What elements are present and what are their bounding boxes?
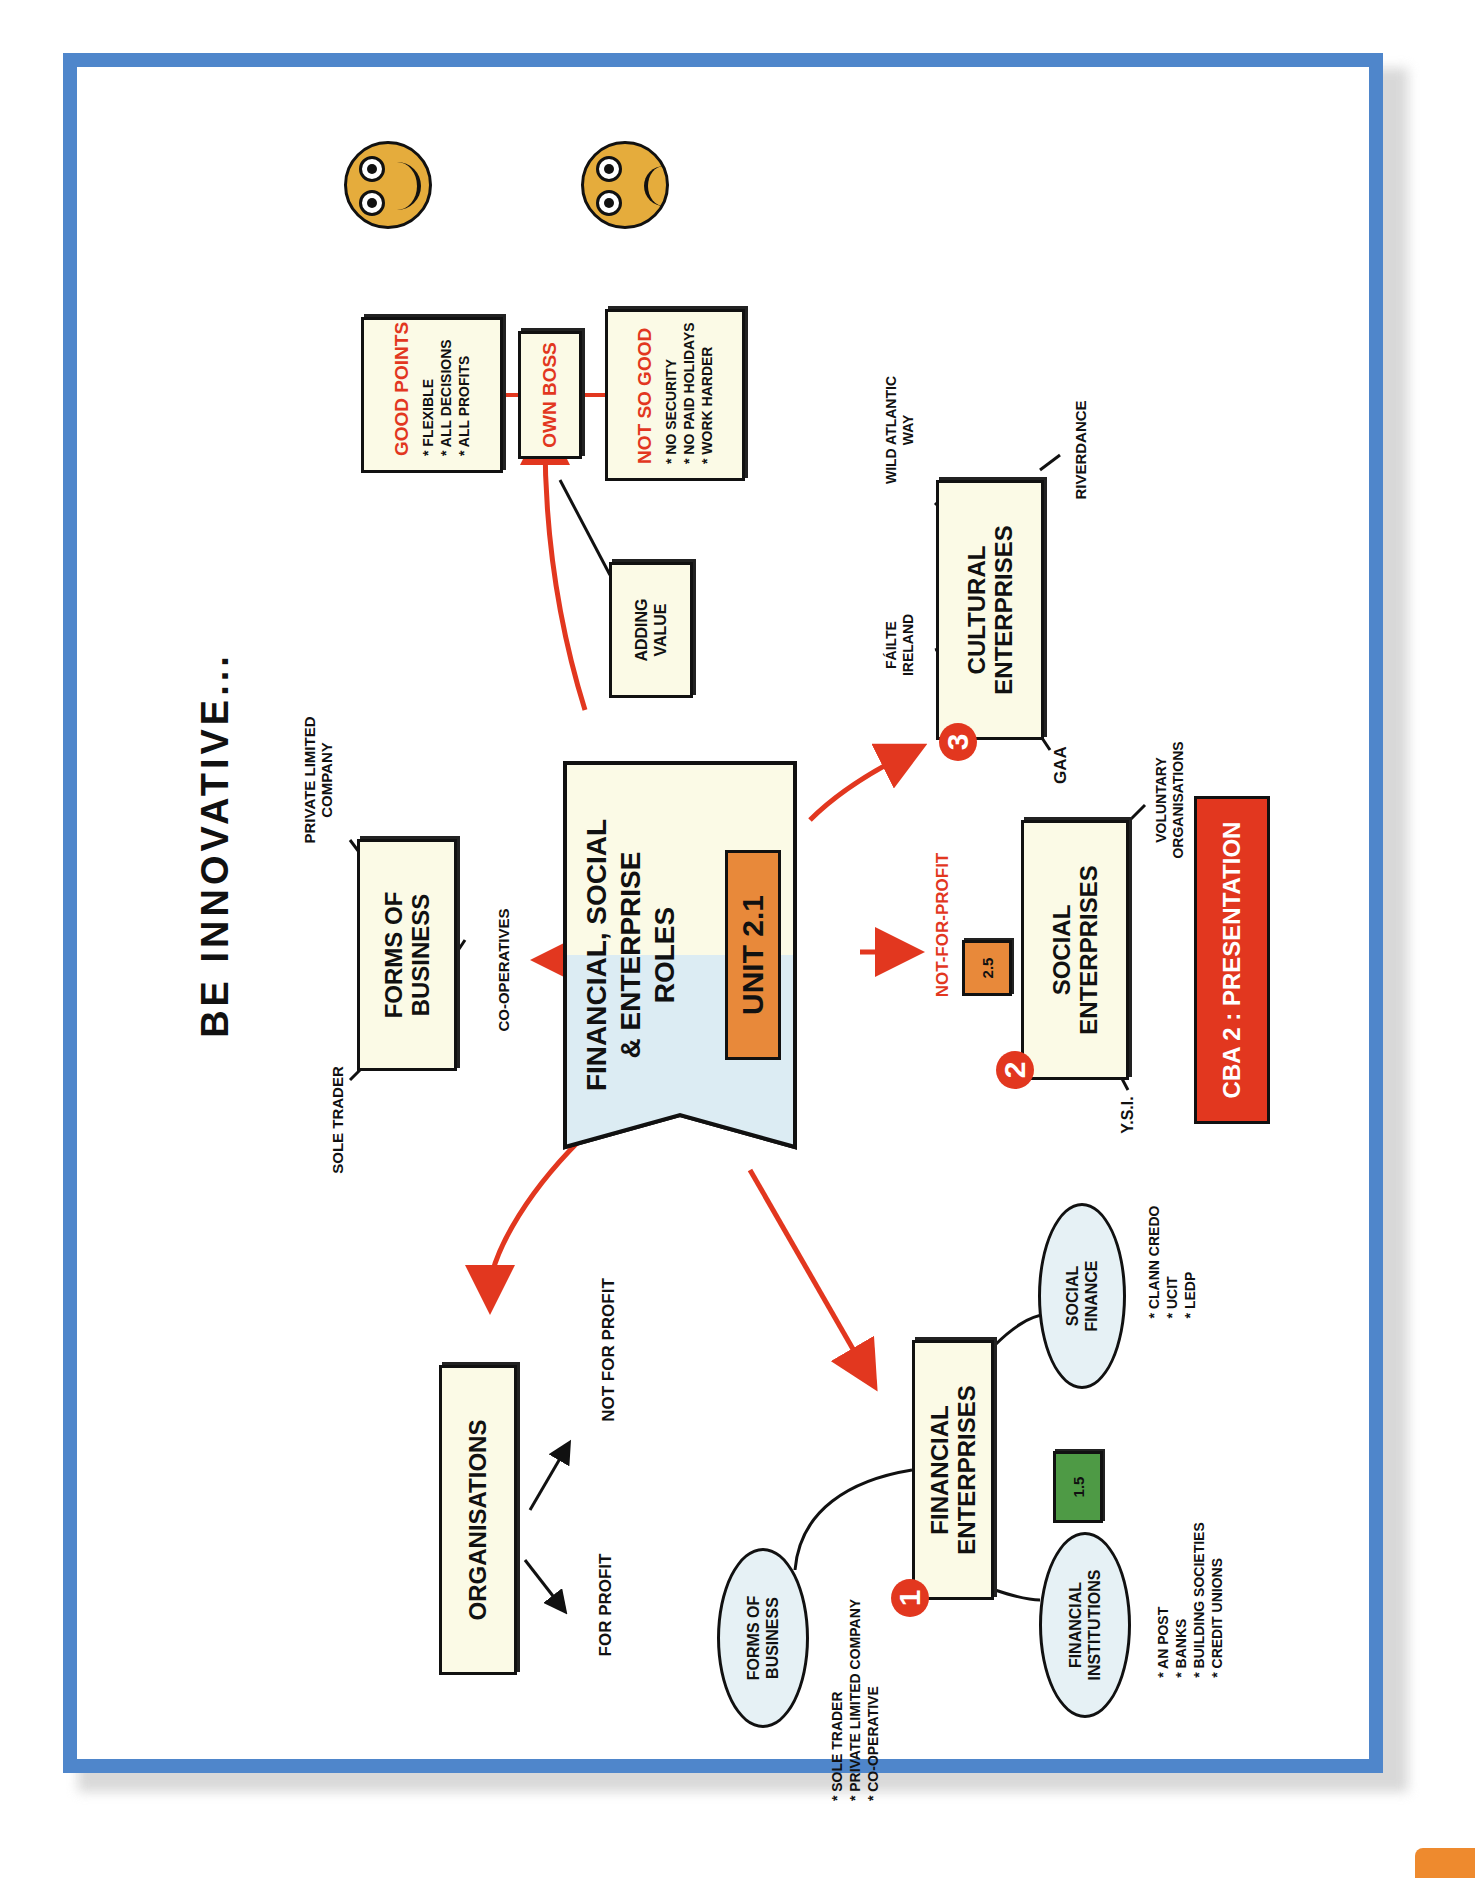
sad-face-icon bbox=[581, 141, 669, 229]
not-so-good-heading: NOT SO GOOD bbox=[634, 328, 656, 464]
not-for-profit-label: NOT-FOR-PROFIT bbox=[934, 853, 951, 997]
financial-enterprises-box: FINANCIAL ENTERPRISES bbox=[912, 1340, 994, 1600]
social-finance-list: * CLANN CREDO * UCIT * LEDP bbox=[1145, 1206, 1199, 1319]
good-points-box: GOOD POINTS * FLEXIBLE * ALL DECISIONS *… bbox=[361, 317, 503, 473]
cba-presentation-banner: CBA 2 : PRESENTATION bbox=[1194, 796, 1270, 1124]
list-item: * NO SECURITY bbox=[662, 322, 680, 464]
list-item: * WORK HARDER bbox=[698, 322, 716, 464]
page-title: BE INNOVATIVE... bbox=[194, 652, 237, 1038]
financial-institutions-list: * AN POST * BANKS * BUILDING SOCIETIES *… bbox=[1154, 1522, 1226, 1678]
center-title-line: & ENTERPRISE bbox=[614, 755, 648, 1155]
list-item: * BANKS bbox=[1172, 1522, 1190, 1678]
center-title-line: ROLES bbox=[648, 755, 682, 1155]
number-badge-1: 1 bbox=[891, 1579, 929, 1617]
riverdance-label: RIVERDANCE bbox=[1072, 400, 1089, 499]
happy-face-icon bbox=[344, 141, 432, 229]
organisations-box: ORGANISATIONS bbox=[439, 1365, 517, 1675]
center-title-line: FINANCIAL, SOCIAL bbox=[580, 755, 614, 1155]
list-item: * CREDIT UNIONS bbox=[1208, 1522, 1226, 1678]
list-item: * CLANN CREDO bbox=[1145, 1206, 1163, 1319]
list-item: * ALL DECISIONS bbox=[437, 339, 455, 456]
number-badge-2: 2 bbox=[996, 1051, 1034, 1089]
adding-value-box: ADDING VALUE bbox=[609, 562, 693, 698]
private-limited-label: PRIVATE LIMITED COMPANY bbox=[301, 717, 335, 844]
financial-institutions-ellipse: FINANCIAL INSTITUTIONS bbox=[1039, 1532, 1131, 1718]
list-item: * CO-OPERATIVE bbox=[864, 1599, 882, 1801]
forms-of-business-list: * SOLE TRADER * PRIVATE LIMITED COMPANY … bbox=[828, 1599, 882, 1801]
voluntary-organisations-label: VOLUNTARY ORGANISATIONS bbox=[1153, 741, 1187, 858]
number-badge-3: 3 bbox=[939, 723, 977, 761]
list-item: * AN POST bbox=[1154, 1522, 1172, 1678]
co-operatives-label: CO-OPERATIVES bbox=[495, 908, 512, 1031]
social-enterprises-box: SOCIAL ENTERPRISES bbox=[1021, 820, 1129, 1080]
list-item: * UCIT bbox=[1163, 1206, 1181, 1319]
cultural-enterprises-box: CULTURAL ENTERPRISES bbox=[936, 480, 1044, 740]
list-item: * BUILDING SOCIETIES bbox=[1190, 1522, 1208, 1678]
list-item: * PRIVATE LIMITED COMPANY bbox=[846, 1599, 864, 1801]
failte-ireland-label: FÁILTE IRELAND bbox=[883, 614, 917, 676]
not-so-good-list: * NO SECURITY * NO PAID HOLIDAYS * WORK … bbox=[662, 322, 716, 464]
not-so-good-box: NOT SO GOOD * NO SECURITY * NO PAID HOLI… bbox=[605, 309, 745, 481]
list-item: * FLEXIBLE bbox=[419, 339, 437, 456]
forms-of-business-ellipse: FORMS OF BUSINESS bbox=[717, 1548, 809, 1728]
good-points-list: * FLEXIBLE * ALL DECISIONS * ALL PROFITS bbox=[419, 339, 473, 456]
own-boss-label: OWN BOSS bbox=[539, 342, 561, 448]
social-finance-ellipse: SOCIAL FINANCE bbox=[1038, 1203, 1126, 1389]
sole-trader-label: SOLE TRADER bbox=[329, 1066, 346, 1174]
section-tag-2-5: 2.5 bbox=[962, 940, 1012, 996]
own-boss-box: OWN BOSS bbox=[518, 331, 582, 459]
gaa-label: GAA bbox=[1052, 746, 1069, 784]
list-item: * SOLE TRADER bbox=[828, 1599, 846, 1801]
list-item: * LEDP bbox=[1181, 1206, 1199, 1319]
unit-badge: UNIT 2.1 bbox=[725, 850, 781, 1060]
list-item: * NO PAID HOLIDAYS bbox=[680, 322, 698, 464]
forms-of-business-box: FORMS OF BUSINESS bbox=[357, 839, 457, 1071]
list-item: * ALL PROFITS bbox=[455, 339, 473, 456]
section-tag-1-5: 1.5 bbox=[1053, 1451, 1103, 1523]
center-node: FINANCIAL, SOCIAL & ENTERPRISE ROLES UNI… bbox=[555, 755, 805, 1155]
good-points-heading: GOOD POINTS bbox=[391, 322, 413, 456]
ysi-label: Y.S.I. bbox=[1119, 1096, 1136, 1133]
not-for-profit-org-label: NOT FOR PROFIT bbox=[600, 1278, 617, 1422]
for-profit-label: FOR PROFIT bbox=[597, 1554, 614, 1657]
wild-atlantic-way-label: WILD ATLANTIC WAY bbox=[883, 376, 917, 484]
